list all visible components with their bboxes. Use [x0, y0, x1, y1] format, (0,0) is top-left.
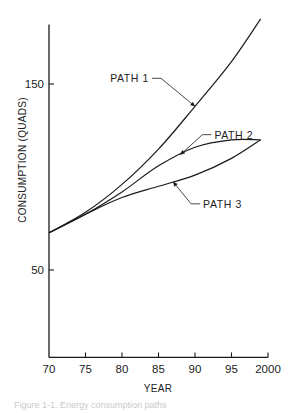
x-tick-label: 90	[189, 363, 202, 375]
annotation-label: PATH 2	[214, 129, 253, 141]
y-tick-label: 150	[25, 78, 44, 90]
x-axis-title: YEAR	[144, 383, 172, 394]
x-tick-label: 2000	[255, 363, 281, 375]
x-tick-label: 95	[225, 363, 238, 375]
figure-caption: Figure 1-1. Energy consumption paths	[14, 400, 167, 410]
chart: 707580859095200050150 PATH 1PATH 2PATH 3…	[0, 0, 298, 413]
x-tick-label: 70	[43, 363, 56, 375]
y-tick-label: 50	[31, 264, 44, 276]
annotation-leader	[152, 78, 195, 106]
annotation-label: PATH 3	[203, 198, 242, 210]
annotation-leader	[173, 182, 200, 204]
y-axis-title: CONSUMPTION (QUADS)	[17, 97, 28, 223]
x-tick-label: 80	[116, 363, 129, 375]
annotation-label: PATH 1	[110, 72, 149, 84]
annotations: PATH 1PATH 2PATH 3	[110, 72, 253, 210]
x-tick-label: 75	[79, 363, 92, 375]
x-tick-label: 85	[152, 363, 165, 375]
axes: 707580859095200050150	[25, 24, 281, 375]
